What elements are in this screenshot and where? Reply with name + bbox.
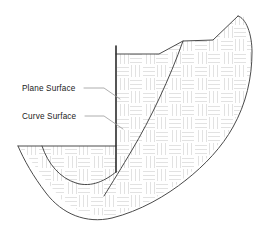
leader-line-plane-surface: [84, 88, 120, 99]
slope-diagram-canvas: Plane Surface Curve Surface: [0, 0, 272, 237]
label-plane-surface: Plane Surface: [22, 84, 76, 93]
diagram-svg: Plane Surface Curve Surface: [0, 0, 272, 237]
labels-group: Plane Surface Curve Surface: [22, 84, 77, 121]
label-curve-surface: Curve Surface: [22, 112, 77, 121]
